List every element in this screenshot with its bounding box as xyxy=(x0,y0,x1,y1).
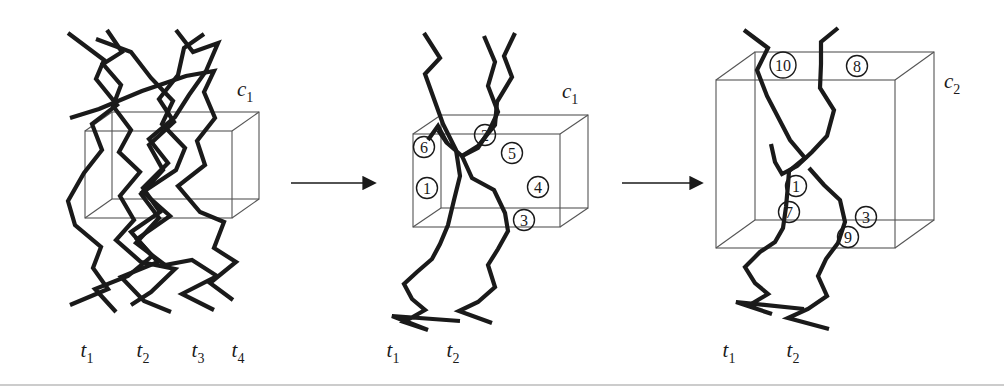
track-id-number: 4 xyxy=(534,179,542,196)
track-id-number: 2 xyxy=(481,127,489,144)
time-label-subscript: 2 xyxy=(452,351,459,366)
trajectory-clustering-figure: c1t1t2t3t4625143c1t1t21081739c2t1t2 xyxy=(0,0,1004,388)
track-id-number: 6 xyxy=(420,139,428,156)
track-id-number: 5 xyxy=(508,145,516,162)
time-label-subscript: 3 xyxy=(197,351,204,366)
cluster-label-subscript: 1 xyxy=(571,92,578,107)
track-id-number: 8 xyxy=(853,58,861,75)
time-label-subscript: 2 xyxy=(792,351,799,366)
track-id-number: 9 xyxy=(844,229,852,246)
track-id-number: 1 xyxy=(792,178,800,195)
track-id-number: 3 xyxy=(862,209,870,226)
cluster-label-subscript: 1 xyxy=(246,90,253,105)
track-id-number: 7 xyxy=(785,204,793,221)
time-label-subscript: 2 xyxy=(142,351,149,366)
track-id-number: 10 xyxy=(775,57,791,74)
time-label-subscript: 1 xyxy=(86,351,93,366)
track-id-number: 3 xyxy=(520,212,528,229)
time-label-subscript: 1 xyxy=(728,351,735,366)
track-id-number: 1 xyxy=(423,180,431,197)
time-label-subscript: 4 xyxy=(237,351,244,366)
cluster-label-subscript: 2 xyxy=(953,82,960,97)
time-label-subscript: 1 xyxy=(392,351,399,366)
